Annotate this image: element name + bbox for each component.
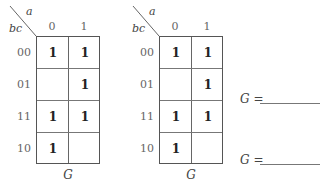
col-header-0: 0 [159,20,191,33]
col-header-1: 1 [68,20,100,33]
cell-01-1: 1 [192,69,224,101]
kmap-2: a bc 0 1 00 01 11 10 1 1 1 1 1 1 G [123,0,243,191]
row-header-10: 10 [132,142,154,155]
left-variable-label: bc [132,22,145,35]
cell-11-1: 1 [192,101,224,133]
cell-11-1: 1 [69,101,101,133]
kmap-name: G [36,168,100,182]
kmap-grid: 1 1 1 1 1 1 [159,36,223,164]
cell-10-1 [192,133,224,165]
cell-10-0: 1 [37,133,69,165]
left-variable-label: bc [9,22,22,35]
row-header-00: 00 [132,46,154,59]
row-header-01: 01 [9,78,31,91]
answer-variable: G [240,153,250,167]
cell-00-0: 1 [160,37,192,69]
answer-1-blank[interactable] [260,103,320,104]
cell-11-0: 1 [37,101,69,133]
cell-10-0: 1 [160,133,192,165]
cell-10-1 [69,133,101,165]
cell-00-0: 1 [37,37,69,69]
top-variable-label: a [26,5,33,18]
cell-11-0: 1 [160,101,192,133]
kmap-1: a bc 0 1 00 01 11 10 1 1 1 1 1 1 G [0,0,120,191]
cell-01-0 [37,69,69,101]
row-header-01: 01 [132,78,154,91]
row-header-00: 00 [9,46,31,59]
cell-01-1: 1 [69,69,101,101]
kmap-name: G [159,168,223,182]
cell-01-0 [160,69,192,101]
kmap-grid: 1 1 1 1 1 1 [36,36,100,164]
row-header-10: 10 [9,142,31,155]
row-header-11: 11 [132,110,154,123]
answer-2-blank[interactable] [260,164,320,165]
row-header-11: 11 [9,110,31,123]
top-variable-label: a [149,5,156,18]
col-header-1: 1 [191,20,223,33]
answer-variable: G [240,92,250,106]
cell-00-1: 1 [69,37,101,69]
cell-00-1: 1 [192,37,224,69]
col-header-0: 0 [36,20,68,33]
